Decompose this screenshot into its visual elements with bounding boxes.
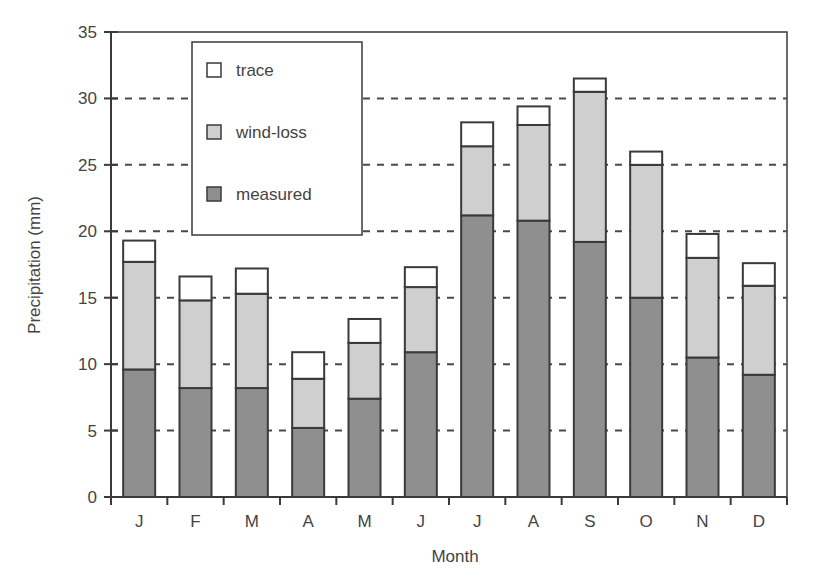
bar-segment-measured <box>687 358 719 498</box>
bar-segment-trace <box>180 276 212 300</box>
y-tick-label: 5 <box>88 422 97 441</box>
x-tick-label: J <box>417 512 426 531</box>
y-axis-title: Precipitation (mm) <box>25 196 44 334</box>
bar-segment-wind-loss <box>743 286 775 375</box>
bar-segment-trace <box>630 152 662 165</box>
bar-segment-trace <box>292 352 324 379</box>
bar-segment-trace <box>574 79 606 92</box>
x-tick-label: J <box>135 512 144 531</box>
y-tick-label: 10 <box>78 355 97 374</box>
legend-swatch-wind-loss <box>207 125 221 139</box>
bar-segment-trace <box>123 241 155 262</box>
bar-segment-measured <box>518 221 550 497</box>
bar-segment-measured <box>292 428 324 497</box>
x-axis-title: Month <box>431 547 478 566</box>
x-tick-label: M <box>245 512 259 531</box>
bar-segment-wind-loss <box>630 165 662 298</box>
legend-swatch-trace <box>207 63 221 77</box>
x-tick-label: O <box>640 512 653 531</box>
bar-segment-measured <box>236 388 268 497</box>
x-tick-label: A <box>302 512 314 531</box>
y-tick-label: 0 <box>88 488 97 507</box>
x-tick-label: S <box>584 512 595 531</box>
x-tick-label: M <box>357 512 371 531</box>
legend: tracewind-lossmeasured <box>192 42 362 235</box>
y-tick-label: 15 <box>78 289 97 308</box>
legend-label-measured: measured <box>236 185 312 204</box>
bar-segment-measured <box>574 242 606 497</box>
y-tick-label: 35 <box>78 23 97 42</box>
bar-segment-trace <box>518 106 550 125</box>
bar-segment-measured <box>461 215 493 497</box>
y-tick-label: 20 <box>78 222 97 241</box>
x-axis: JFMAMJJASOND <box>104 497 787 531</box>
bar-segment-wind-loss <box>349 343 381 399</box>
y-tick-label: 25 <box>78 156 97 175</box>
y-axis: 05101520253035 <box>78 23 118 507</box>
bar-segment-wind-loss <box>405 287 437 352</box>
bar-segment-wind-loss <box>687 258 719 358</box>
bar-segment-trace <box>461 122 493 146</box>
bar-segment-measured <box>743 375 775 497</box>
x-tick-label: J <box>473 512 482 531</box>
bar-segment-wind-loss <box>123 262 155 370</box>
bar-segment-measured <box>123 369 155 497</box>
bar-segment-trace <box>349 319 381 343</box>
bar-segment-measured <box>349 399 381 497</box>
legend-label-wind-loss: wind-loss <box>235 123 307 142</box>
bar-segment-wind-loss <box>518 125 550 221</box>
bar-segment-wind-loss <box>461 146 493 215</box>
bar-segment-wind-loss <box>236 294 268 388</box>
x-tick-label: A <box>528 512 540 531</box>
legend-swatch-measured <box>207 187 221 201</box>
bar-segment-trace <box>405 267 437 287</box>
y-tick-label: 30 <box>78 89 97 108</box>
bar-segment-trace <box>687 234 719 258</box>
bar-segment-measured <box>405 352 437 497</box>
bar-segment-trace <box>236 268 268 293</box>
bar-segment-wind-loss <box>180 300 212 388</box>
x-tick-label: D <box>753 512 765 531</box>
legend-label-trace: trace <box>236 61 274 80</box>
x-tick-label: N <box>696 512 708 531</box>
x-tick-label: F <box>190 512 200 531</box>
bar-segment-wind-loss <box>292 379 324 428</box>
bar-segment-wind-loss <box>574 92 606 242</box>
bar-segment-measured <box>180 388 212 497</box>
bar-segment-trace <box>743 263 775 286</box>
stacked-bar-chart: 05101520253035 JFMAMJJASOND Precipitatio… <box>0 0 814 583</box>
bar-segment-measured <box>630 298 662 497</box>
